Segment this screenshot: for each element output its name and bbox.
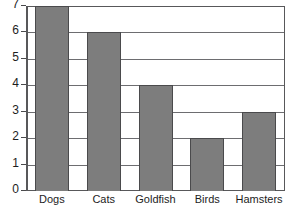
y-axis: 0 1 2 3 4 5 6 7 [0, 0, 26, 215]
y-tick-label-5: 5 [12, 51, 19, 63]
x-label-cats: Cats [78, 193, 130, 206]
y-tick-label-3: 3 [12, 104, 19, 116]
bars-container [26, 6, 285, 191]
y-tick-mark-4 [21, 84, 26, 85]
y-tick-label-0: 0 [12, 183, 19, 195]
y-tick-label-4: 4 [12, 77, 19, 89]
y-tick-mark-6 [21, 31, 26, 32]
x-label-dogs: Dogs [26, 193, 78, 206]
y-tick-label-6: 6 [12, 24, 19, 36]
y-tick-mark-2 [21, 137, 26, 138]
bar-chart: 0 1 2 3 4 5 6 7 Dogs [0, 0, 290, 215]
y-tick-label-1: 1 [12, 157, 19, 169]
x-axis-labels: Dogs Cats Goldfish Birds Hamsters [26, 193, 285, 213]
x-label-hamsters: Hamsters [233, 193, 285, 206]
bar-goldfish [139, 85, 173, 191]
y-tick-mark-7 [21, 5, 26, 6]
bar-dogs [35, 6, 69, 191]
bar-hamsters [242, 112, 276, 191]
y-tick-mark-3 [21, 111, 26, 112]
y-tick-mark-0 [21, 190, 26, 191]
x-label-birds: Birds [181, 193, 233, 206]
bar-birds [190, 138, 224, 191]
y-tick-mark-5 [21, 58, 26, 59]
x-label-goldfish: Goldfish [130, 193, 182, 206]
y-tick-mark-1 [21, 164, 26, 165]
y-tick-label-7: 7 [12, 0, 19, 10]
y-tick-label-2: 2 [12, 130, 19, 142]
bar-cats [87, 32, 121, 191]
